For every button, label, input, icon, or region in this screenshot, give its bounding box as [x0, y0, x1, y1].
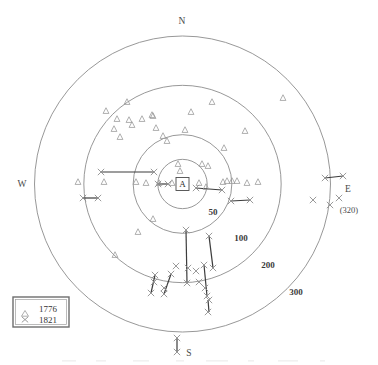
triangle-icon	[177, 168, 183, 174]
cross-icon	[161, 291, 167, 297]
outer-point-annotation: (320)	[340, 205, 359, 215]
triangle-icon	[101, 179, 107, 185]
triangle-icon	[188, 109, 194, 115]
series-markers-1821	[80, 169, 346, 355]
page-artifacts	[62, 360, 325, 362]
segment-9	[164, 274, 171, 294]
triangle-icon	[224, 178, 230, 184]
center-label: A	[179, 179, 186, 189]
triangle-icon	[139, 116, 145, 122]
polar-scatter-figure: A N E S W 50 100 200 300 (320) 1776 1821	[0, 0, 378, 365]
cross-icon	[173, 263, 179, 269]
triangle-icon	[143, 180, 149, 186]
triangle-icon	[153, 125, 159, 131]
segment-3	[231, 200, 250, 201]
triangle-icon	[103, 108, 109, 114]
cross-icon	[327, 202, 333, 208]
legend-label-1776: 1776	[39, 304, 58, 314]
triangle-icon	[150, 216, 156, 222]
segment-5	[325, 176, 343, 178]
ring-label-100: 100	[234, 233, 248, 243]
segment-6	[186, 230, 187, 283]
center-marker: A	[176, 178, 189, 191]
polar-plot-svg: A N E S W 50 100 200 300 (320) 1776 1821	[0, 0, 378, 365]
triangle-icon	[221, 145, 227, 151]
cross-icon	[185, 265, 191, 271]
ring-label-300: 300	[289, 287, 303, 297]
triangle-icon	[133, 179, 139, 185]
triangle-icon	[242, 128, 248, 134]
triangle-icon	[160, 133, 166, 139]
ring-label-200: 200	[261, 260, 275, 270]
cardinal-label-west: W	[18, 179, 27, 189]
cross-icon	[205, 309, 211, 315]
triangle-icon	[114, 116, 120, 122]
legend-label-1821: 1821	[39, 315, 57, 325]
ring-label-50: 50	[209, 207, 219, 217]
triangle-icon	[199, 161, 205, 167]
triangle-icon	[255, 179, 261, 185]
triangle-icon	[111, 126, 117, 132]
triangle-icon	[182, 127, 188, 133]
triangle-icon	[135, 229, 141, 235]
cardinal-label-south: S	[186, 348, 191, 358]
cross-icon	[310, 197, 316, 203]
triangle-icon	[75, 179, 81, 185]
triangle-icon	[205, 163, 211, 169]
segment-7	[209, 236, 213, 268]
segment-11	[208, 300, 209, 312]
triangle-icon	[280, 95, 286, 101]
triangle-icon	[126, 117, 132, 123]
cardinal-label-north: N	[179, 16, 186, 26]
legend: 1776 1821	[13, 297, 69, 327]
triangle-icon	[234, 178, 240, 184]
triangle-icon	[117, 134, 123, 140]
cross-icon	[336, 195, 342, 201]
triangle-icon	[196, 180, 202, 186]
triangle-icon	[175, 161, 181, 167]
triangle-icon	[244, 180, 250, 186]
triangle-icon	[209, 99, 215, 105]
cardinal-label-east: E	[345, 184, 351, 194]
cross-icon	[202, 285, 208, 291]
cross-icon	[193, 268, 199, 274]
cross-icon	[168, 271, 174, 277]
